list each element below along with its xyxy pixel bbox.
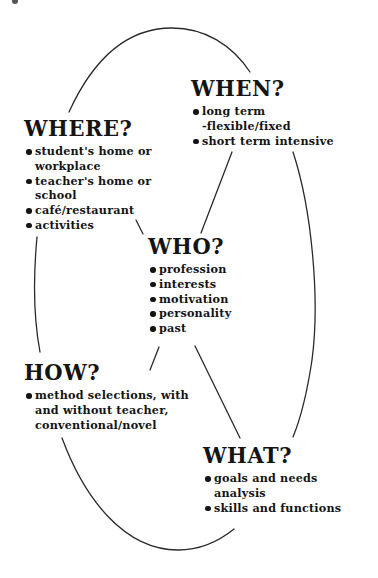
bullet-icon	[26, 393, 32, 399]
how-items: method selections, with and without teac…	[26, 388, 189, 432]
bullet-icon	[150, 267, 156, 273]
line-when-who	[201, 152, 232, 233]
list-item: motivation	[150, 292, 231, 307]
who-heading: WHO?	[148, 236, 231, 257]
where-heading: WHERE?	[24, 118, 152, 139]
bullet-icon	[193, 109, 199, 115]
bullet-icon	[150, 311, 156, 317]
when-heading: WHEN?	[191, 78, 334, 99]
node-who: WHO? profession interests motivation per…	[148, 236, 231, 336]
list-item: skills and functions	[205, 501, 341, 516]
bullet-icon	[26, 223, 32, 229]
arc-when-what	[293, 152, 315, 437]
node-where: WHERE? student's home or workplace teach…	[24, 118, 152, 233]
when-items: long term -flexible/fixed short term int…	[193, 104, 334, 148]
list-item: teacher's home or school	[26, 174, 152, 204]
bullet-icon	[26, 179, 32, 185]
line-who-what	[195, 346, 240, 438]
list-item: student's home or workplace	[26, 144, 152, 174]
list-item: method selections, with and without teac…	[26, 388, 189, 432]
list-item: short term intensive	[193, 134, 334, 149]
where-items: student's home or workplace teacher's ho…	[26, 144, 152, 233]
how-heading: HOW?	[24, 362, 189, 383]
who-items: profession interests motivation personal…	[150, 262, 231, 336]
node-what: WHAT? goals and needs analysis skills an…	[203, 445, 341, 515]
list-item: personality	[150, 306, 231, 321]
what-heading: WHAT?	[203, 445, 341, 466]
list-item: activities	[26, 218, 152, 233]
bullet-icon	[150, 297, 156, 303]
bullet-icon	[26, 149, 32, 155]
list-item: interests	[150, 277, 231, 292]
bullet-icon	[205, 506, 211, 512]
list-item: profession	[150, 262, 231, 277]
what-items: goals and needs analysis skills and func…	[205, 471, 341, 515]
node-when: WHEN? long term -flexible/fixed short te…	[191, 78, 334, 148]
arc-where-how	[35, 237, 40, 352]
list-item: goals and needs analysis	[205, 471, 341, 501]
list-item: past	[150, 321, 231, 336]
bullet-icon	[205, 476, 211, 482]
bullet-icon	[150, 326, 156, 332]
cycle-diagram: WHEN? long term -flexible/fixed short te…	[0, 0, 378, 578]
node-how: HOW? method selections, with and without…	[24, 362, 189, 432]
list-item: café/restaurant	[26, 203, 152, 218]
bullet-icon	[26, 208, 32, 214]
list-item: long term -flexible/fixed	[193, 104, 334, 134]
bullet-icon	[150, 282, 156, 288]
bullet-icon	[193, 139, 199, 145]
